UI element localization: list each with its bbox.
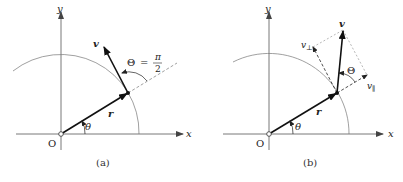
circular-path-arc: [233, 53, 349, 134]
panel-b-caption: (b): [303, 157, 317, 168]
r-label: r: [108, 108, 114, 119]
origin-point: [267, 132, 272, 137]
y-axis-label: y: [264, 3, 271, 14]
panel-b: x y θ r v Θ v⊥ v∥ O (b): [223, 3, 394, 168]
v-perp-component: [313, 47, 337, 93]
panel-a-caption: (a): [96, 157, 110, 168]
v-parallel-label: v∥: [367, 81, 375, 93]
x-axis-label: x: [388, 128, 394, 139]
particle-point: [126, 91, 130, 95]
position-vector-r: [61, 94, 127, 135]
circular-path-arc: [13, 54, 139, 134]
v-label: v: [339, 18, 345, 29]
pi-numerator: π: [154, 52, 162, 62]
r-label: r: [316, 106, 322, 117]
big-theta-label: Θ: [127, 57, 135, 68]
big-theta-label: Θ: [347, 65, 355, 76]
position-vector-r: [269, 94, 336, 135]
velocity-vector-v: [337, 31, 343, 93]
big-theta-angle-arc: [122, 72, 147, 81]
y-axis-label: y: [56, 3, 63, 14]
v-perp-label: v⊥: [301, 40, 313, 52]
theta-label: θ: [85, 121, 91, 132]
two-denominator: 2: [155, 64, 161, 74]
figure-canvas: x y θ r v Θ = π 2 O (a) x y: [0, 0, 403, 182]
x-axis-label: x: [186, 128, 192, 139]
origin-label: O: [48, 138, 56, 149]
theta-angle-arc: [290, 121, 293, 134]
panel-a: x y θ r v Θ = π 2 O (a): [13, 3, 192, 168]
particle-point: [335, 91, 339, 95]
origin-point: [59, 132, 64, 137]
theta-label: θ: [295, 121, 301, 132]
v-parallel-component: [337, 75, 367, 93]
v-label: v: [93, 38, 99, 49]
radial-extension-dashed: [128, 63, 177, 93]
origin-label: O: [256, 138, 264, 149]
parallelogram-edge-top: [313, 30, 343, 47]
equals-sign: =: [140, 57, 148, 68]
